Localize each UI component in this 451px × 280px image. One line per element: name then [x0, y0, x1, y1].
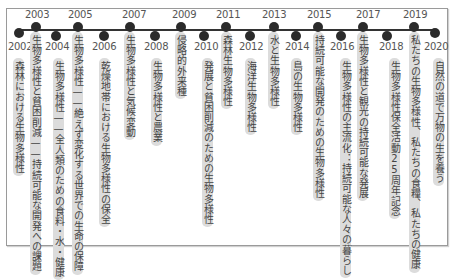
- theme-label-2014: 島の生物多様性: [291, 58, 302, 135]
- theme-label-2020: 自然の道で万物の生を養う: [433, 58, 444, 186]
- timeline-dot-2002: [14, 28, 24, 38]
- timeline-dot-2008: [150, 31, 160, 41]
- year-label-2010: 2010: [194, 41, 218, 52]
- theme-label-2003: 生物多様性と貧困削減——持続可能な開発への課題: [30, 32, 41, 275]
- year-label-2015: 2015: [307, 9, 331, 20]
- timeline-dot-2013: [269, 22, 279, 32]
- theme-label-2018: 生物多様性保全活動25周年記念: [389, 58, 400, 219]
- year-label-2014: 2014: [285, 41, 309, 52]
- year-label-2013: 2013: [262, 9, 286, 20]
- timeline-dot-2009: [176, 22, 186, 32]
- theme-label-2004: 生物多様性——全人類のための食料・水・健康: [53, 58, 64, 280]
- timeline-dot-2016: [336, 31, 346, 41]
- theme-label-2009: 侵略的外来種: [175, 32, 186, 99]
- timeline-dot-2011: [221, 22, 231, 32]
- year-label-2007: 2007: [122, 9, 146, 20]
- timeline-dot-2004: [51, 31, 61, 41]
- theme-label-2011: 森林生物多様性: [221, 32, 232, 109]
- year-label-2016: 2016: [330, 41, 354, 52]
- timeline-dot-2015: [313, 22, 323, 32]
- timeline-dot-2019: [409, 22, 419, 32]
- timeline-dot-2010: [199, 31, 209, 41]
- year-label-2005: 2005: [68, 9, 92, 20]
- theme-label-2005: 生物多様性——絶えず変化する世界での生命の保障: [72, 32, 83, 275]
- year-label-2003: 2003: [25, 9, 49, 20]
- theme-label-2008: 生物多様性と農業: [151, 58, 162, 146]
- timeline-dot-2003: [31, 22, 41, 32]
- theme-label-2015: 持続可能な開発のための生物多様性: [313, 32, 324, 201]
- year-label-2004: 2004: [45, 41, 69, 52]
- year-label-2011: 2011: [216, 9, 240, 20]
- year-label-2019: 2019: [403, 9, 427, 20]
- timeline-dot-2014: [291, 31, 301, 41]
- theme-label-2012: 海洋生物多様性: [245, 58, 256, 135]
- theme-label-2010: 発展と貧困削減のための生物多様性: [202, 58, 213, 227]
- theme-label-2002: 森林における生物多様性: [13, 58, 24, 176]
- timeline-dot-2006: [99, 31, 109, 41]
- year-label-2009: 2009: [172, 9, 196, 20]
- timeline-dot-2018: [382, 31, 392, 41]
- year-label-2017: 2017: [356, 9, 380, 20]
- year-label-2008: 2008: [144, 41, 168, 52]
- timeline-dot-2007: [125, 22, 135, 32]
- year-label-2018: 2018: [379, 41, 403, 52]
- year-label-2020: 2020: [424, 41, 448, 52]
- theme-label-2017: 生物多様性と観光の持続可能な発展: [357, 32, 368, 201]
- theme-label-2007: 生物多様性と気候変動: [124, 32, 135, 140]
- theme-label-2019: 私たちの生物多様性、私たちの食糧、私たちの健康: [409, 32, 420, 273]
- theme-label-2016: 生物多様性の主流化：持続可能な人々の暮らし: [340, 58, 351, 278]
- timeline-dot-2017: [358, 22, 368, 32]
- timeline-dot-2012: [245, 31, 255, 41]
- year-label-2002: 2002: [8, 41, 32, 52]
- theme-label-2006: 乾燥地帯における生物多様性の保全: [99, 58, 110, 227]
- theme-label-2013: 水と生物多様性: [268, 32, 279, 109]
- year-label-2012: 2012: [239, 41, 263, 52]
- timeline-dot-2005: [73, 22, 83, 32]
- year-label-2006: 2006: [92, 41, 116, 52]
- timeline-dot-2020: [430, 28, 440, 38]
